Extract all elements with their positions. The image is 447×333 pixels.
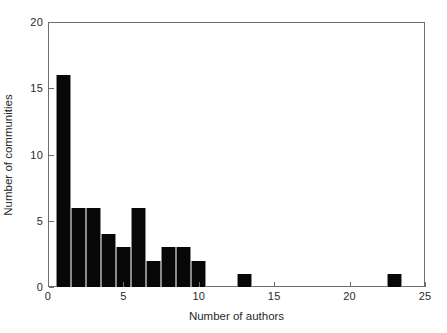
y-axis-title-text: Number of communities bbox=[2, 94, 14, 215]
y-axis-title: Number of communities bbox=[0, 22, 16, 287]
x-tick-mark bbox=[425, 282, 426, 287]
y-tick-label: 20 bbox=[30, 16, 43, 28]
x-tick-label: 20 bbox=[343, 290, 356, 302]
y-tick-mark bbox=[49, 221, 54, 222]
x-tick-label: 0 bbox=[45, 290, 51, 302]
y-tick-mark bbox=[49, 287, 54, 288]
x-axis-title: Number of authors bbox=[48, 310, 425, 322]
y-tick-mark bbox=[49, 88, 54, 89]
plot-area bbox=[48, 22, 425, 287]
y-tick-label: 5 bbox=[37, 215, 43, 227]
x-tick-label: 10 bbox=[192, 290, 205, 302]
histogram-figure: 0510152025 05101520 Number of authors Nu… bbox=[0, 0, 447, 333]
y-tick-mark bbox=[49, 155, 54, 156]
x-tick-mark bbox=[274, 282, 275, 287]
y-tick-label: 15 bbox=[30, 82, 43, 94]
x-tick-label: 5 bbox=[120, 290, 126, 302]
y-tick-label: 10 bbox=[30, 149, 43, 161]
x-tick-mark bbox=[199, 282, 200, 287]
y-tick-label: 0 bbox=[37, 281, 43, 293]
x-tick-mark bbox=[123, 282, 124, 287]
x-tick-label: 25 bbox=[419, 290, 432, 302]
x-tick-label: 15 bbox=[268, 290, 281, 302]
y-tick-mark bbox=[49, 22, 54, 23]
x-tick-mark bbox=[350, 282, 351, 287]
